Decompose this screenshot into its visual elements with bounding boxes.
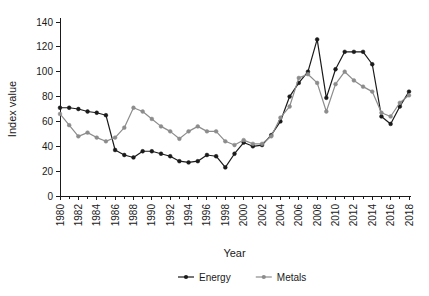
data-point-energy [150, 149, 154, 153]
data-point-metals [104, 139, 108, 143]
data-point-metals [205, 129, 209, 133]
x-tick-label: 2014 [367, 204, 378, 227]
series-line-metals [60, 72, 409, 145]
x-tick-label: 2018 [404, 204, 415, 227]
data-point-energy [187, 161, 191, 165]
data-point-metals [269, 134, 273, 138]
data-point-metals [370, 90, 374, 94]
y-tick-label: 20 [42, 166, 54, 177]
data-point-energy [76, 107, 80, 111]
x-tick-label: 1992 [165, 204, 176, 227]
line-chart: 0204060801001201401980198219841986198819… [0, 0, 429, 296]
data-point-energy [389, 122, 393, 126]
y-tick-label: 0 [47, 191, 53, 202]
data-point-energy [233, 152, 237, 156]
data-point-metals [67, 123, 71, 127]
data-point-metals [352, 79, 356, 83]
data-point-metals [86, 131, 90, 135]
data-point-energy [380, 115, 384, 119]
data-point-metals [159, 125, 163, 129]
legend-marker-metals [262, 275, 266, 279]
data-point-metals [288, 105, 292, 109]
data-point-energy [205, 153, 209, 157]
x-tick-label: 2000 [238, 204, 249, 227]
data-point-energy [196, 159, 200, 163]
x-tick-label: 2010 [330, 204, 341, 227]
x-tick-label: 2008 [312, 204, 323, 227]
data-point-metals [306, 72, 310, 76]
data-point-metals [334, 82, 338, 86]
data-point-energy [352, 50, 356, 54]
data-point-metals [361, 85, 365, 89]
x-axis-title: Year [223, 247, 246, 259]
series-line-energy [60, 39, 409, 167]
y-tick-label: 60 [42, 116, 54, 127]
data-point-metals [168, 129, 172, 133]
data-point-energy [370, 62, 374, 66]
data-point-energy [324, 96, 328, 100]
data-point-metals [223, 139, 227, 143]
data-point-energy [407, 90, 411, 94]
data-point-metals [233, 143, 237, 147]
x-tick-label: 1980 [55, 204, 66, 227]
legend-label-energy: Energy [199, 272, 231, 283]
x-tick-label: 1994 [183, 204, 194, 227]
data-point-energy [58, 106, 62, 110]
data-point-metals [297, 76, 301, 80]
data-point-energy [95, 111, 99, 115]
data-point-energy [159, 152, 163, 156]
data-point-energy [122, 153, 126, 157]
data-point-energy [86, 110, 90, 114]
y-axis-title: Index value [6, 81, 18, 137]
data-point-energy [113, 148, 117, 152]
data-point-metals [150, 117, 154, 121]
x-tick-label: 1996 [201, 204, 212, 227]
data-point-energy [132, 156, 136, 160]
y-tick-label: 100 [36, 66, 53, 77]
y-tick-label: 120 [36, 41, 53, 52]
data-point-metals [76, 134, 80, 138]
data-point-metals [315, 81, 319, 85]
x-tick-label: 1986 [110, 204, 121, 227]
data-point-metals [132, 106, 136, 110]
legend-marker-energy [184, 275, 188, 279]
data-point-metals [214, 129, 218, 133]
data-point-energy [288, 95, 292, 99]
data-point-metals [95, 136, 99, 140]
x-tick-label: 2002 [257, 204, 268, 227]
data-point-metals [242, 138, 246, 142]
data-point-energy [334, 67, 338, 71]
chart-container: 0204060801001201401980198219841986198819… [0, 0, 429, 296]
data-point-energy [343, 50, 347, 54]
legend-label-metals: Metals [277, 272, 306, 283]
data-point-energy [177, 159, 181, 163]
x-tick-label: 1990 [146, 204, 157, 227]
data-point-metals [122, 126, 126, 130]
data-point-energy [141, 149, 145, 153]
x-tick-label: 1988 [128, 204, 139, 227]
data-point-energy [223, 166, 227, 170]
data-point-metals [343, 70, 347, 74]
data-point-energy [214, 154, 218, 158]
data-point-metals [407, 93, 411, 97]
data-point-metals [196, 125, 200, 129]
x-tick-label: 2012 [348, 204, 359, 227]
x-tick-label: 1998 [220, 204, 231, 227]
data-point-metals [113, 136, 117, 140]
x-tick-label: 1982 [73, 204, 84, 227]
data-point-metals [398, 101, 402, 105]
y-tick-label: 40 [42, 141, 54, 152]
data-point-metals [177, 137, 181, 141]
data-point-metals [141, 110, 145, 114]
y-tick-label: 80 [42, 91, 54, 102]
data-point-energy [104, 113, 108, 117]
x-tick-label: 2016 [385, 204, 396, 227]
data-point-energy [67, 106, 71, 110]
data-point-metals [187, 129, 191, 133]
data-point-metals [260, 142, 264, 146]
data-point-metals [324, 110, 328, 114]
data-point-metals [58, 112, 62, 116]
x-tick-label: 2006 [293, 204, 304, 227]
data-point-energy [361, 50, 365, 54]
data-point-metals [380, 111, 384, 115]
